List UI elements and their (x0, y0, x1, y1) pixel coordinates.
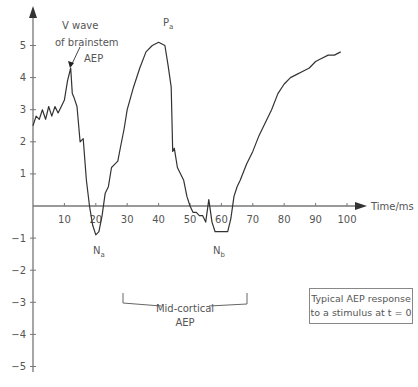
x-tick-label: 30 (121, 214, 134, 225)
x-tick-label: 80 (278, 214, 291, 225)
v-wave-label-line1: V wave (62, 20, 98, 31)
y-tick-label: −5 (11, 361, 26, 372)
x-axis-label: Time/ms (370, 201, 414, 212)
y-tick-label: 2 (20, 136, 26, 147)
v-wave-label-line3: AEP (84, 53, 103, 64)
x-tick-label: 40 (152, 214, 165, 225)
y-tick-label: −4 (11, 329, 26, 340)
legend-box: Typical AEP response to a stimulus at t … (309, 288, 413, 324)
x-tick-label: 60 (215, 214, 228, 225)
v-wave-label-line2: of brainstem (55, 37, 119, 48)
y-tick-label: 5 (20, 40, 26, 51)
y-ticks: 54321−1−2−3−4−5 (11, 40, 36, 372)
x-tick-label: 100 (337, 214, 356, 225)
y-axis-arrow-icon (29, 6, 37, 18)
midcortical-label-line1: Mid-cortical (156, 303, 214, 314)
aep-chart: Time/ms 54321−1−2−3−4−5 1020304050607080… (0, 0, 418, 387)
y-tick-label: 3 (20, 104, 26, 115)
x-tick-label: 50 (184, 214, 197, 225)
x-axis-arrow-icon (355, 202, 367, 210)
y-tick-label: −1 (11, 233, 26, 244)
midcortical-bracket-right (209, 293, 247, 306)
legend-line1: Typical AEP response (310, 292, 412, 306)
x-tick-label: 10 (58, 214, 71, 225)
midcortical-label-line2: AEP (175, 317, 194, 328)
na-label: Na (93, 245, 105, 259)
legend-line2: to a stimulus at t = 0 (310, 306, 412, 320)
y-tick-label: −2 (11, 265, 26, 276)
y-tick-label: 1 (20, 168, 26, 179)
y-tick-label: 4 (20, 72, 26, 83)
y-tick-label: −3 (11, 297, 26, 308)
x-tick-label: 70 (246, 214, 259, 225)
nb-label: Nb (213, 245, 225, 259)
x-tick-label: 90 (309, 214, 322, 225)
pa-label: Pa (163, 17, 173, 31)
